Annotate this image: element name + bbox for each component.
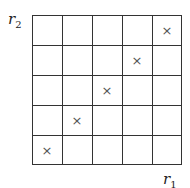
grid-line — [33, 105, 181, 106]
cross-mark: × — [152, 15, 182, 45]
cross-mark: × — [92, 75, 122, 105]
cross-mark: × — [32, 135, 62, 165]
grid-line — [62, 16, 63, 164]
grid-line — [33, 45, 181, 46]
cross-mark: × — [62, 105, 92, 135]
grid-line — [122, 16, 123, 164]
y-axis-label: r2 — [8, 10, 22, 30]
cross-mark: × — [122, 45, 152, 75]
x-axis-label: r1 — [163, 170, 177, 188]
grid: ××××× — [32, 15, 182, 165]
